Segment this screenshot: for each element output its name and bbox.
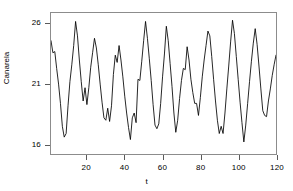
x-tick-mark <box>277 155 278 160</box>
y-tick-label: 21 <box>19 80 41 88</box>
x-tick-mark <box>201 155 202 160</box>
x-tick-mark <box>239 155 240 160</box>
x-tick-mark <box>163 155 164 160</box>
plot-area <box>50 12 277 155</box>
x-tick-mark <box>86 155 87 160</box>
x-axis-label: t <box>0 178 293 186</box>
x-tick-label: 40 <box>112 164 136 172</box>
x-tick-label: 20 <box>74 164 98 172</box>
x-tick-label: 120 <box>265 164 289 172</box>
y-tick-label: 26 <box>19 19 41 27</box>
x-tick-label: 80 <box>189 164 213 172</box>
chart-figure: Canarela 162126 20406080100120 t <box>0 0 293 191</box>
series-line-canarela <box>51 13 276 154</box>
y-axis-label: Canarela <box>3 37 11 99</box>
y-tick-label: 16 <box>19 141 41 149</box>
x-tick-mark <box>124 155 125 160</box>
x-tick-label: 60 <box>151 164 175 172</box>
x-tick-label: 100 <box>227 164 251 172</box>
